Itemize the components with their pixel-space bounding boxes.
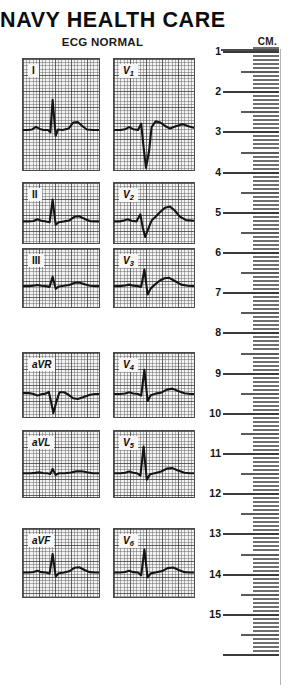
lead-label-v6: V6 xyxy=(119,534,138,548)
ruler-tick-mm xyxy=(253,461,279,463)
ruler-tick-half xyxy=(241,71,279,73)
lead-label-v3: V3 xyxy=(119,254,138,268)
ruler-tick-mm xyxy=(253,582,279,584)
ecg-waveform-path xyxy=(114,447,194,480)
ruler-tick-mm xyxy=(253,75,279,77)
ruler-tick-mm xyxy=(253,115,279,117)
ruler-tick-mm xyxy=(253,385,279,387)
ecg-waveform-path xyxy=(114,550,194,578)
ruler-tick-mm xyxy=(253,598,279,600)
lead-label-avf: aVF xyxy=(28,534,54,547)
ruler-tick-mm xyxy=(253,445,279,447)
lead-label-subscript: 5 xyxy=(130,441,134,450)
ruler-tick-mm xyxy=(253,578,279,580)
ruler-tick-mm xyxy=(253,477,279,479)
lead-label-base: II xyxy=(32,189,38,200)
ruler-tick-mm xyxy=(253,566,279,568)
ruler-tick-mm xyxy=(253,417,279,419)
ruler-tick-mm xyxy=(253,204,279,206)
ruler-tick-mm xyxy=(253,268,279,270)
ruler-tick-cm xyxy=(223,493,279,495)
ruler-tick-mm xyxy=(253,529,279,531)
ruler-tick-half xyxy=(241,513,279,515)
ruler-tick-mm xyxy=(253,95,279,97)
ruler-tick-mm xyxy=(253,196,279,198)
lead-label-subscript: 3 xyxy=(130,259,134,268)
ruler-label-7: 7 xyxy=(199,287,221,297)
ruler-tick-mm xyxy=(253,224,279,226)
lead-label-base: V xyxy=(123,359,130,370)
ruler-tick-cm xyxy=(223,292,279,294)
lead-label-ii: II xyxy=(28,188,42,201)
ruler-tick-mm xyxy=(253,208,279,210)
ruler-tick-mm xyxy=(253,405,279,407)
ruler-tick-mm xyxy=(253,501,279,503)
ruler-tick-mm xyxy=(253,320,279,322)
ruler-label-15: 15 xyxy=(199,609,221,619)
ruler-tick-mm xyxy=(253,465,279,467)
lead-label-base: I xyxy=(32,65,35,76)
ruler-tick-mm xyxy=(253,646,279,648)
ruler-tick-mm xyxy=(253,103,279,105)
ruler-tick-half xyxy=(241,393,279,395)
ruler-label-9: 9 xyxy=(199,368,221,378)
ruler-tick-mm xyxy=(253,545,279,547)
ruler-label-2: 2 xyxy=(199,86,221,96)
ruler-tick-half xyxy=(241,433,279,435)
ruler-tick-mm xyxy=(253,409,279,411)
ruler-tick-half xyxy=(241,473,279,475)
ruler-tick-mm xyxy=(253,143,279,145)
ruler-tick-mm xyxy=(253,308,279,310)
ecg-panel-v3: V3 xyxy=(113,248,195,308)
ruler-tick-mm xyxy=(253,425,279,427)
ruler-label-10: 10 xyxy=(199,408,221,418)
ruler-tick-cm xyxy=(223,614,279,616)
ruler-tick-mm xyxy=(253,79,279,81)
lead-label-base: aVF xyxy=(32,535,50,546)
lead-label-base: V xyxy=(123,189,130,200)
ruler-tick-mm xyxy=(253,441,279,443)
lead-label-subscript: 4 xyxy=(130,363,134,372)
lead-label-v4: V4 xyxy=(119,358,138,372)
ruler-tick-mm xyxy=(253,216,279,218)
ecg-panel-ii: II xyxy=(22,182,100,244)
ruler-tick-mm xyxy=(253,304,279,306)
ecg-panel-v2: V2 xyxy=(113,182,195,244)
ruler-tick-mm xyxy=(253,369,279,371)
ecg-panel-avr: aVR xyxy=(22,352,100,418)
ruler-tick-mm xyxy=(253,55,279,57)
ruler-label-5: 5 xyxy=(199,207,221,217)
lead-label-avl: aVL xyxy=(28,436,54,449)
ruler-tick-mm xyxy=(253,610,279,612)
ruler-tick-cm xyxy=(223,413,279,415)
ruler-tick-half xyxy=(241,111,279,113)
ruler-tick-mm xyxy=(253,429,279,431)
ruler-tick-cm xyxy=(223,212,279,214)
ruler-tick-mm xyxy=(253,630,279,632)
ruler-tick-mm xyxy=(253,264,279,266)
ruler-tick-group: 123456789101112131415 xyxy=(210,0,291,691)
ecg-panel-iii: III xyxy=(22,248,100,308)
lead-label-v5: V5 xyxy=(119,436,138,450)
lead-label-base: V xyxy=(123,255,130,266)
ruler-tick-mm xyxy=(253,316,279,318)
ruler-tick-mm xyxy=(253,437,279,439)
ruler-tick-mm xyxy=(253,650,279,652)
ecg-panel-grid: IV1IIV2IIIV3aVRV4aVLV5aVFV6 xyxy=(0,0,210,691)
ruler-label-6: 6 xyxy=(199,247,221,257)
ruler-tick-half xyxy=(241,634,279,636)
ruler-tick-mm xyxy=(253,521,279,523)
ruler-tick-mm xyxy=(253,638,279,640)
ruler-tick-mm xyxy=(253,489,279,491)
ruler-tick-mm xyxy=(253,517,279,519)
ruler-tick-mm xyxy=(253,168,279,170)
lead-label-i: I xyxy=(28,64,39,77)
lead-label-base: V xyxy=(123,65,130,76)
ruler-label-14: 14 xyxy=(199,569,221,579)
ruler-tick-cm xyxy=(223,332,279,334)
ruler-tick-mm xyxy=(253,228,279,230)
ruler-tick-mm xyxy=(253,626,279,628)
ruler-tick-mm xyxy=(253,481,279,483)
ruler-tick-mm xyxy=(253,184,279,186)
ecg-waveform-path xyxy=(23,392,99,413)
